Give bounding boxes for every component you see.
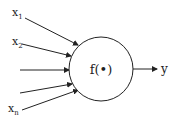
input-label-n: xn — [8, 102, 19, 117]
input-arrow-2 — [22, 44, 71, 56]
diagram-svg: x1 x2 xn f(•) y — [0, 0, 176, 125]
input-arrow-1 — [25, 18, 78, 45]
output-label: y — [160, 62, 168, 76]
input-arrow-5 — [22, 90, 78, 110]
input-arrow-4 — [20, 84, 72, 93]
neuron-diagram: x1 x2 xn f(•) y — [0, 0, 176, 125]
input-label-1: x1 — [12, 6, 23, 21]
input-label-2: x2 — [12, 35, 23, 50]
node-function-label: f(•) — [90, 62, 113, 77]
